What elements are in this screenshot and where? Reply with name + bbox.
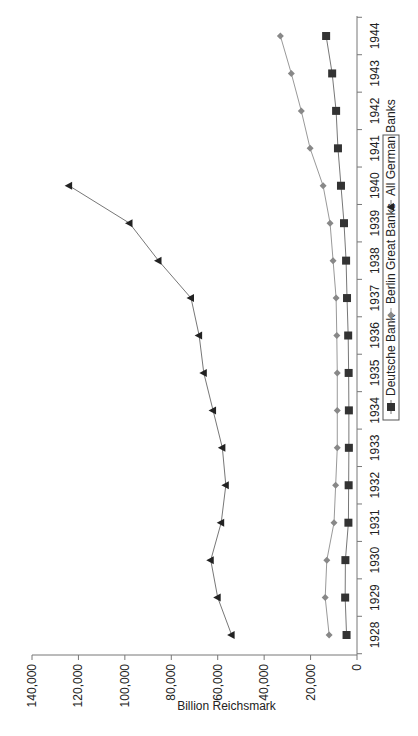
y-tick-label: 60,000 <box>211 664 225 701</box>
axes: 020,00040,00060,00080,000100,000120,0001… <box>25 16 382 707</box>
y-tick-label: 120,000 <box>71 664 85 708</box>
diamond-marker <box>334 444 341 451</box>
diamond-marker <box>333 332 340 339</box>
square-marker <box>332 107 340 115</box>
diamond-marker <box>332 482 339 489</box>
legend-label: All German Banks <box>384 99 398 196</box>
series-line <box>69 186 232 635</box>
diamond-marker <box>334 369 341 376</box>
diamond-marker <box>323 557 330 564</box>
diamond-marker <box>277 33 284 40</box>
x-tick-label: 1940 <box>368 172 382 199</box>
square-marker <box>387 403 395 411</box>
diamond-marker <box>307 145 314 152</box>
diamond-marker <box>320 182 327 189</box>
x-tick-label: 1937 <box>368 284 382 311</box>
triangle-marker <box>206 556 214 564</box>
diamond-marker <box>334 407 341 414</box>
y-tick-label: 140,000 <box>25 664 39 708</box>
chart-container: 020,00040,00060,00080,000100,000120,0001… <box>0 0 418 736</box>
y-tick-label: 40,000 <box>257 664 271 701</box>
triangle-marker <box>154 257 162 265</box>
diamond-marker <box>330 257 337 264</box>
square-marker <box>341 556 349 564</box>
square-marker <box>344 519 352 527</box>
y-tick-label: 80,000 <box>164 664 178 701</box>
square-marker <box>345 406 353 414</box>
x-tick-label: 1929 <box>368 584 382 611</box>
series-all-german-banks <box>65 182 235 639</box>
square-marker <box>322 32 330 40</box>
square-marker <box>334 144 342 152</box>
diamond-marker <box>331 519 338 526</box>
series-berlin-great-banks <box>277 33 341 639</box>
y-axis-title: Billion Reichsmark <box>177 699 277 713</box>
y-tick-label: 20,000 <box>304 664 318 701</box>
x-tick-label: 1928 <box>368 621 382 648</box>
x-tick-label: 1942 <box>368 97 382 124</box>
x-tick-label: 1941 <box>368 135 382 162</box>
legend-label: Berlin Great Banks <box>384 203 398 304</box>
x-tick-label: 1930 <box>368 546 382 573</box>
x-tick-label: 1935 <box>368 359 382 386</box>
square-marker <box>345 444 353 452</box>
square-marker <box>345 481 353 489</box>
diamond-marker <box>298 107 305 114</box>
diamond-marker <box>322 594 329 601</box>
series-layer <box>65 32 353 639</box>
legend: Deutsche BankBerlin Great BanksAll Germa… <box>383 99 399 420</box>
square-marker <box>345 369 353 377</box>
x-tick-label: 1933 <box>368 434 382 461</box>
x-tick-label: 1939 <box>368 210 382 237</box>
x-tick-label: 1931 <box>368 509 382 536</box>
diamond-marker <box>333 295 340 302</box>
series-line <box>280 36 337 635</box>
x-tick-label: 1943 <box>368 60 382 87</box>
line-chart: 020,00040,00060,00080,000100,000120,0001… <box>0 0 418 736</box>
square-marker <box>337 182 345 190</box>
y-tick-label: 0 <box>350 664 364 671</box>
y-tick-label: 100,000 <box>118 664 132 708</box>
x-tick-label: 1934 <box>368 397 382 424</box>
x-tick-label: 1936 <box>368 322 382 349</box>
diamond-marker <box>327 220 334 227</box>
square-marker <box>343 631 351 639</box>
x-tick-label: 1944 <box>368 22 382 49</box>
diamond-marker <box>326 632 333 639</box>
triangle-marker <box>187 294 195 302</box>
square-marker <box>344 332 352 340</box>
x-tick-label: 1938 <box>368 247 382 274</box>
x-tick-label: 1932 <box>368 472 382 499</box>
square-marker <box>340 219 348 227</box>
legend-label: Deutsche Bank <box>384 314 398 396</box>
triangle-marker <box>125 219 133 227</box>
square-marker <box>341 594 349 602</box>
square-marker <box>343 294 351 302</box>
diamond-marker <box>288 70 295 77</box>
triangle-marker <box>65 182 73 190</box>
square-marker <box>328 69 336 77</box>
square-marker <box>342 257 350 265</box>
